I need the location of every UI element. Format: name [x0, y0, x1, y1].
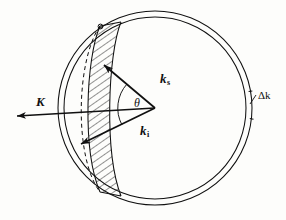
scattered-vector-label: ks — [160, 72, 170, 87]
incident-vector-label: ki — [140, 124, 149, 139]
scattering-sphere-figure — [0, 0, 286, 220]
scattered-wavevector-arrow — [104, 65, 155, 108]
scattering-angle-arc — [118, 84, 127, 125]
shell-thickness-label: Δk — [258, 90, 271, 101]
scattering-angle-label: θ — [134, 97, 140, 109]
scattering-vector-label: K — [36, 95, 45, 108]
